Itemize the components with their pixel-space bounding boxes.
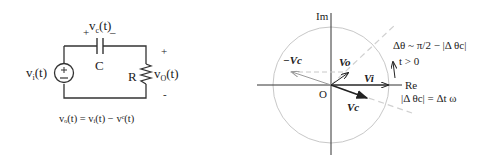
capacitor-label: C bbox=[95, 58, 104, 73]
diagram-canvas: vi(t) + vc(t) – C R + vO(t) - vₒ(t) = vᵢ… bbox=[0, 0, 498, 159]
rotation-arrow-icon bbox=[393, 62, 395, 78]
vc-label: Vc bbox=[347, 101, 359, 113]
delta-theta-c-annotation: |Δ θc| = Δt ω bbox=[401, 92, 457, 104]
out-plus-sign: + bbox=[161, 45, 167, 57]
resistor-symbol bbox=[141, 64, 151, 84]
delta-theta-annotation: Δθ ~ π/2 − |Δ θc| bbox=[393, 39, 466, 51]
output-voltage-label: vO(t) bbox=[154, 66, 179, 83]
cap-voltage-label: vc(t) bbox=[89, 18, 111, 35]
source-voltage-label: vi(t) bbox=[26, 65, 47, 82]
wire-left-bottom bbox=[64, 84, 146, 98]
cap-minus-sign: – bbox=[109, 26, 116, 38]
neg-vc-vector bbox=[292, 72, 331, 85]
vo-label: Vo bbox=[339, 56, 351, 68]
phasor-diagram: Im Re O −Vc Vo Vi Vc Δθ ~ π/2 − |Δ θc| t… bbox=[257, 10, 466, 155]
resistor-label: R bbox=[128, 69, 137, 84]
real-axis-label: Re bbox=[405, 79, 417, 91]
wire-top-right bbox=[103, 46, 146, 64]
imag-axis-label: Im bbox=[316, 10, 329, 22]
voltage-source-icon bbox=[55, 64, 74, 83]
kvl-equation: vₒ(t) = vᵢ(t) − vᶜ(t) bbox=[59, 113, 135, 125]
rc-circuit: vi(t) + vc(t) – C R + vO(t) - vₒ(t) = vᵢ… bbox=[26, 18, 179, 125]
neg-vc-label: −Vc bbox=[283, 54, 302, 66]
vc-vector bbox=[331, 85, 367, 98]
vo-vector bbox=[331, 73, 348, 85]
origin-label: O bbox=[319, 88, 327, 100]
capacitor-symbol bbox=[97, 38, 103, 54]
vi-label: Vi bbox=[364, 72, 375, 84]
delta-theta-guide-line bbox=[331, 25, 395, 85]
time-condition-annotation: t > 0 bbox=[399, 55, 420, 67]
out-minus-sign: - bbox=[163, 88, 167, 100]
